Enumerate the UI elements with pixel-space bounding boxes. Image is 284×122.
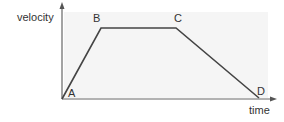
point-label-a: A: [68, 87, 76, 99]
y-axis-label: velocity: [17, 11, 54, 23]
x-axis-arrow-icon: [270, 97, 277, 102]
point-label-b: B: [93, 12, 100, 24]
velocity-time-diagram: velocity time A B C D: [0, 0, 284, 122]
x-axis-label: time: [249, 104, 270, 116]
point-label-c: C: [174, 12, 182, 24]
point-label-d: D: [257, 85, 265, 97]
y-axis-arrow-icon: [60, 2, 65, 9]
diagram-canvas: velocity time A B C D: [0, 0, 284, 122]
plot-background: [64, 12, 268, 98]
